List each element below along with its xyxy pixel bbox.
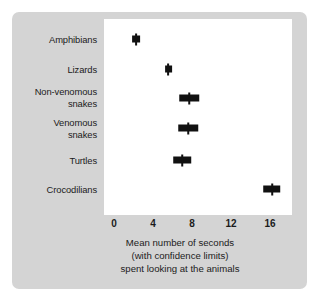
data-point-crocodilians	[263, 186, 281, 193]
data-point-venomous-snakes	[178, 125, 198, 132]
data-point-turtles	[173, 157, 191, 164]
data-point-non-venomous-snakes	[179, 95, 199, 102]
figure-container: Amphibians Lizards Non-venomous snakes V…	[0, 0, 319, 300]
y-axis-label-turtles: Turtles	[0, 155, 97, 167]
x-axis-tick-12: 12	[216, 218, 246, 229]
y-axis-label-non-venomous-snakes: Non-venomous snakes	[0, 86, 97, 109]
x-axis-tick-8: 8	[177, 218, 207, 229]
y-axis-label-crocodilians: Crocodilians	[0, 184, 97, 196]
x-axis-caption: Mean number of seconds (with confidence …	[60, 236, 300, 275]
x-axis-caption-line-3: spent looking at the animals	[60, 262, 300, 275]
x-axis-caption-line-2: (with confidence limits)	[60, 249, 300, 262]
x-axis-tick-0: 0	[99, 218, 129, 229]
x-axis-caption-line-1: Mean number of seconds	[60, 236, 300, 249]
y-axis-label-amphibians: Amphibians	[0, 34, 97, 46]
y-axis-label-lizards: Lizards	[0, 64, 97, 76]
x-axis-tick-4: 4	[138, 218, 168, 229]
data-point-amphibians	[133, 36, 141, 43]
x-axis-tick-16: 16	[255, 218, 285, 229]
y-axis-label-venomous-snakes: Venomous snakes	[0, 117, 97, 140]
data-point-lizards	[165, 66, 173, 73]
